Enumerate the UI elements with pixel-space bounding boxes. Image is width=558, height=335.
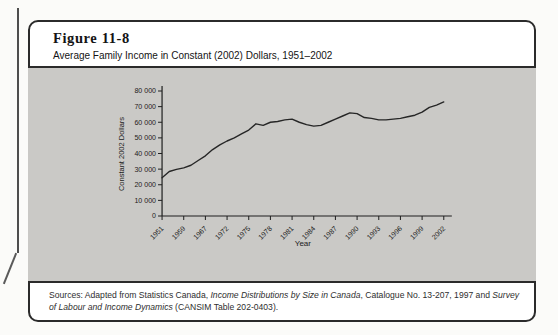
income-data-line [162, 102, 444, 178]
x-tick-label: 1975 [235, 225, 251, 241]
page-column-rule-tail [3, 253, 17, 284]
sources-text-1: Sources: Adapted from Statistics Canada, [49, 290, 210, 300]
x-tick-label: 1996 [387, 225, 403, 241]
x-tick-label: 1959 [170, 225, 186, 241]
chart-axes [162, 86, 452, 216]
chart-tick-labels: 010 00020 00030 00040 00050 00060 00070 … [134, 88, 446, 241]
page-column-rule [17, 8, 19, 253]
sources-italic-title-1: Income Distributions by Size in Canada [210, 290, 360, 300]
y-axis-title: Constant 2002 Dollars [117, 117, 126, 191]
x-tick-label: 1967 [192, 225, 208, 241]
x-tick-label: 1972 [214, 225, 230, 241]
x-tick-label: 1990 [344, 225, 360, 241]
x-tick-label: 1987 [322, 225, 338, 241]
x-tick-label: 1978 [257, 225, 273, 241]
figure-number-label: Figure 11-8 [53, 30, 524, 47]
figure-box: Figure 11-8 Average Family Income in Con… [28, 20, 536, 322]
y-tick-label: 30 000 [134, 166, 156, 173]
y-tick-label: 10 000 [134, 197, 156, 204]
y-tick-label: 20 000 [134, 181, 156, 188]
y-tick-label: 70 000 [134, 103, 156, 110]
x-tick-label: 1993 [365, 225, 381, 241]
x-tick-label: 2002 [430, 225, 446, 241]
y-tick-label: 50 000 [134, 134, 156, 141]
y-tick-label: 0 [152, 213, 156, 220]
x-tick-label: 1981 [279, 225, 295, 241]
y-tick-label: 60 000 [134, 119, 156, 126]
sources-text-2: , Catalogue No. 13-207, 1997 and [360, 290, 492, 300]
y-tick-label: 80 000 [134, 88, 156, 95]
sources-text-3: (CANSIM Table 202-0403). [173, 302, 278, 312]
figure-header: Figure 11-8 Average Family Income in Con… [30, 22, 534, 61]
x-tick-label: 1951 [149, 225, 165, 241]
x-tick-label: 1999 [409, 225, 425, 241]
income-line-chart: 010 00020 00030 00040 00050 00060 00070 … [28, 68, 536, 281]
chart-panel: 010 00020 00030 00040 00050 00060 00070 … [28, 66, 536, 283]
y-tick-label: 40 000 [134, 150, 156, 157]
chart-tick-marks [158, 91, 444, 220]
figure-title: Average Family Income in Constant (2002)… [53, 50, 524, 61]
sources-note: Sources: Adapted from Statistics Canada,… [49, 289, 520, 313]
x-axis-title: Year [295, 239, 312, 248]
